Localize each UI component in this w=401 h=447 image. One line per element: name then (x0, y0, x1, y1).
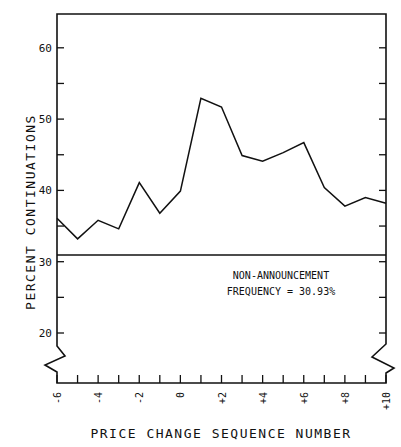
y-tick-label: 20 (39, 327, 52, 340)
y-tick-label: 30 (39, 256, 52, 269)
y-tick-labels: 2030405060 (39, 42, 52, 340)
y-tick-label: 60 (39, 42, 52, 55)
x-tick-labels: -6-4-20+2+4+6+8+10 (52, 392, 392, 410)
x-tick-label: +10 (381, 392, 392, 410)
reference-label-line1: NON-ANNOUNCEMENT (233, 270, 329, 281)
y-tick-label: 40 (39, 184, 52, 197)
x-axis-label: PRICE CHANGE SEQUENCE NUMBER (90, 426, 351, 441)
x-tick-label: 0 (175, 392, 186, 398)
x-tick-label: -4 (93, 392, 104, 404)
axis-ticks (57, 48, 386, 383)
line-chart: 2030405060 -6-4-20+2+4+6+8+10 NON-ANNOUN… (0, 0, 401, 447)
x-tick-label: +8 (340, 392, 351, 404)
data-line (57, 98, 386, 239)
y-axis-label: PERCENT CONTINUATIONS (23, 114, 38, 310)
x-tick-label: -2 (134, 392, 145, 404)
x-tick-label: +6 (299, 392, 310, 404)
x-tick-label: -6 (52, 392, 63, 404)
y-tick-label: 50 (39, 113, 52, 126)
reference-label-line2: FREQUENCY = 30.93% (227, 286, 335, 297)
x-tick-label: +2 (217, 392, 228, 404)
x-tick-label: +4 (258, 392, 269, 404)
plot-frame (45, 14, 394, 383)
